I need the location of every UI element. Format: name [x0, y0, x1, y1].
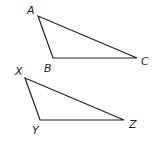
similar-triangles-diagram: A B C X Y Z	[0, 0, 155, 148]
vertex-label-z: Z	[128, 118, 137, 131]
triangle-abc: A B C	[26, 4, 149, 75]
triangle-xyz-shape	[25, 78, 124, 120]
vertex-label-x: X	[14, 65, 23, 78]
vertex-label-c: C	[141, 55, 149, 68]
triangle-abc-shape	[38, 16, 137, 58]
triangle-xyz: X Y Z	[14, 65, 137, 137]
vertex-label-b: B	[44, 62, 52, 75]
vertex-label-y: Y	[32, 124, 40, 137]
vertex-label-a: A	[26, 4, 35, 17]
